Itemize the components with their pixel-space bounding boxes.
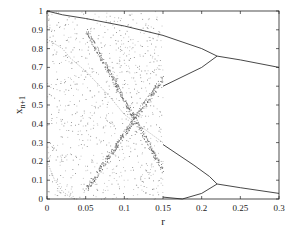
y-tick-label: 0.7 <box>32 62 44 72</box>
x-axis-ticks: 00.050.10.150.20.250.3 <box>45 11 285 213</box>
bifurcation-chart: 00.050.10.150.20.250.3 00.10.20.30.40.50… <box>0 0 299 232</box>
y-axis-label: xn+1 <box>12 96 27 114</box>
y-tick-label: 1 <box>39 6 44 16</box>
y-label-subscript: n+1 <box>18 96 27 109</box>
x-tick-label: 0.3 <box>273 203 285 213</box>
x-tick-label: 0.1 <box>119 203 130 213</box>
y-tick-label: 0.6 <box>32 81 44 91</box>
y-tick-label: 0.2 <box>32 156 43 166</box>
x-tick-label: 0.05 <box>78 203 94 213</box>
branch-lines <box>47 11 279 199</box>
x-tick-label: 0.2 <box>196 203 207 213</box>
y-tick-label: 0.5 <box>32 100 44 110</box>
x-tick-label: 0.25 <box>232 203 248 213</box>
y-tick-label: 0.9 <box>32 25 44 35</box>
x-tick-label: 0.15 <box>155 203 171 213</box>
x-axis-label: r <box>161 215 165 227</box>
y-tick-label: 0.3 <box>32 138 44 148</box>
y-tick-label: 0.4 <box>32 119 44 129</box>
svg-text:xn+1: xn+1 <box>12 96 27 114</box>
y-tick-label: 0 <box>39 194 44 204</box>
scatter-points <box>47 11 164 200</box>
x-tick-label: 0 <box>45 203 50 213</box>
plot-frame <box>47 11 279 199</box>
y-tick-label: 0.8 <box>32 44 44 54</box>
y-tick-label: 0.1 <box>32 175 43 185</box>
